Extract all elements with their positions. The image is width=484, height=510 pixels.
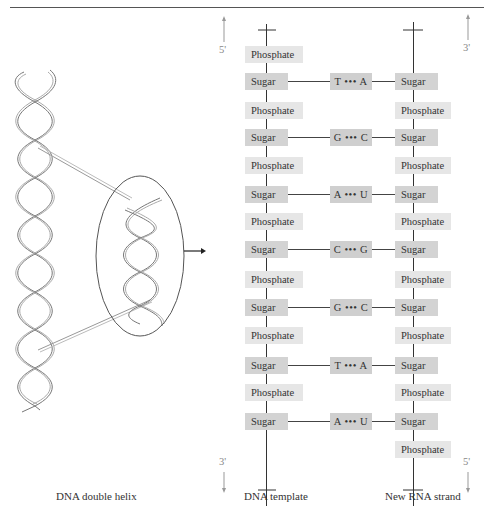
template-sugar: Sugar [245,186,288,203]
template-sugar: Sugar [245,413,288,430]
caption-dna-template: DNA template [244,490,308,502]
template-sugar: Sugar [245,129,288,146]
template-phosphate: Phosphate [245,327,303,344]
base-pair: C ••• G [330,241,372,258]
rna-phosphate: Phosphate [395,384,451,401]
rna-sugar: Sugar [395,299,438,316]
rna-sugar: Sugar [395,357,438,374]
base-pair: T ••• A [330,73,372,90]
base-pair: T ••• A [330,357,372,374]
rna-sugar: Sugar [395,129,438,146]
base-pair: G ••• C [330,129,372,146]
template-phosphate: Phosphate [245,213,303,230]
template-phosphate: Phosphate [245,157,303,174]
rna-sugar: Sugar [395,186,438,203]
template-phosphate: Phosphate [245,271,303,288]
template-sugar: Sugar [245,73,288,90]
template-sugar: Sugar [245,357,288,374]
rna-phosphate: Phosphate [395,441,451,458]
rna-phosphate: Phosphate [395,157,451,174]
template-backbone [266,24,267,506]
caption-new-rna-strand: New RNA strand [385,490,461,502]
rna-backbone [413,22,414,506]
rna-phosphate: Phosphate [395,327,451,344]
base-pair: G ••• C [330,299,372,316]
template-3prime-label: 3' [219,456,226,467]
base-pair: A ••• U [330,186,372,203]
rna-phosphate: Phosphate [395,102,451,119]
rna-5prime-label: 5' [463,456,470,467]
template-phosphate: Phosphate [245,102,303,119]
rna-sugar: Sugar [395,413,438,430]
rna-phosphate: Phosphate [395,271,451,288]
template-phosphate: Phosphate [245,384,303,401]
rna-3prime-label: 3' [463,42,470,53]
base-pair: A ••• U [330,413,372,430]
rna-phosphate: Phosphate [395,213,451,230]
template-sugar: Sugar [245,299,288,316]
template-5prime-label: 5' [219,44,226,55]
rna-sugar: Sugar [395,241,438,258]
caption-dna-double-helix: DNA double helix [56,490,137,502]
template-phosphate: Phosphate [245,46,303,63]
template-sugar: Sugar [245,241,288,258]
rna-sugar: Sugar [395,73,438,90]
